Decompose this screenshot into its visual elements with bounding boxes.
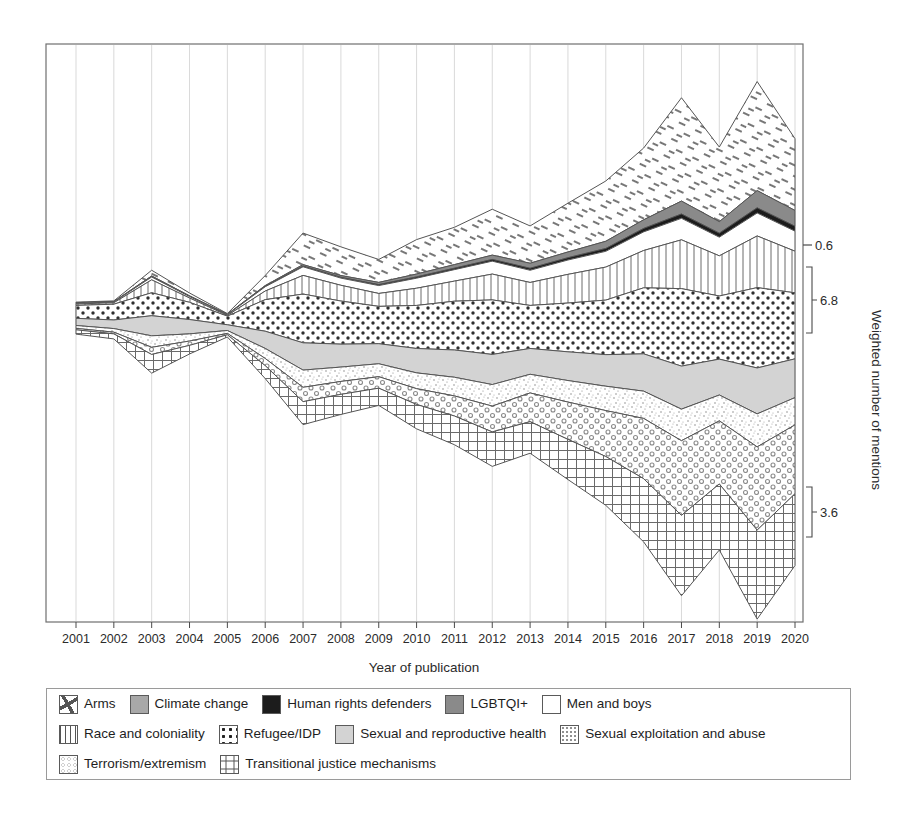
legend-label: LGBTQI+	[470, 697, 527, 711]
legend-item[interactable]: Transitional justice mechanisms	[220, 755, 436, 774]
legend-item[interactable]: Arms	[59, 695, 116, 714]
x-tick-label: 2008	[327, 632, 355, 646]
x-tick-label: 2010	[403, 632, 431, 646]
x-tick-label: 2015	[592, 632, 620, 646]
annotation-label: 3.6	[820, 505, 838, 520]
legend-swatch-icon	[59, 695, 78, 714]
legend-item[interactable]: Sexual and reproductive health	[335, 725, 546, 744]
y-axis-label: Weighted number of mentions	[869, 310, 884, 490]
legend-label: Race and coloniality	[84, 727, 205, 741]
x-tick-label: 2014	[554, 632, 582, 646]
legend-item[interactable]: Human rights defenders	[262, 695, 431, 714]
legend-item[interactable]: Climate change	[130, 695, 249, 714]
legend-swatch-icon	[542, 695, 561, 714]
x-axis-ticks: 2001200220032004200520062007200820092010…	[62, 622, 809, 646]
legend-swatch-icon	[219, 725, 238, 744]
legend-label: Climate change	[155, 697, 249, 711]
legend-label: Transitional justice mechanisms	[245, 757, 436, 771]
legend-row: ArmsClimate changeHuman rights defenders…	[47, 689, 850, 719]
legend-row: Race and colonialityRefugee/IDPSexual an…	[47, 719, 850, 749]
x-tick-label: 2013	[516, 632, 544, 646]
annotation-label: 0.6	[815, 238, 833, 253]
x-tick-label: 2019	[743, 632, 771, 646]
x-tick-label: 2020	[781, 632, 809, 646]
legend-label: Men and boys	[567, 697, 652, 711]
legend-item[interactable]: Race and coloniality	[59, 725, 205, 744]
x-tick-label: 2006	[251, 632, 279, 646]
x-tick-label: 2011	[441, 632, 468, 646]
legend-item[interactable]: Refugee/IDP	[219, 725, 321, 744]
chart-page: 2001200220032004200520062007200820092010…	[0, 0, 900, 822]
legend-swatch-icon	[445, 695, 464, 714]
x-tick-label: 2012	[478, 632, 506, 646]
annotation-bracket	[806, 487, 817, 537]
legend-swatch-icon	[59, 755, 78, 774]
annotation-bracket	[806, 267, 817, 333]
legend: ArmsClimate changeHuman rights defenders…	[46, 688, 851, 780]
x-tick-label: 2007	[289, 632, 317, 646]
legend-item[interactable]: Terrorism/extremism	[59, 755, 206, 774]
legend-label: Refugee/IDP	[244, 727, 321, 741]
legend-swatch-icon	[130, 695, 149, 714]
legend-swatch-icon	[220, 755, 239, 774]
legend-row: Terrorism/extremismTransitional justice …	[47, 749, 850, 779]
x-tick-label: 2009	[365, 632, 393, 646]
x-tick-label: 2003	[138, 632, 166, 646]
x-tick-label: 2004	[176, 632, 204, 646]
x-tick-label: 2018	[705, 632, 733, 646]
x-tick-label: 2005	[213, 632, 241, 646]
legend-label: Sexual and reproductive health	[360, 727, 546, 741]
legend-swatch-icon	[560, 725, 579, 744]
legend-swatch-icon	[335, 725, 354, 744]
legend-item[interactable]: LGBTQI+	[445, 695, 527, 714]
x-tick-label: 2001	[62, 632, 90, 646]
x-tick-label: 2016	[630, 632, 658, 646]
value-annotations: 0.66.83.6	[803, 238, 838, 538]
legend-swatch-icon	[59, 725, 78, 744]
legend-item[interactable]: Sexual exploitation and abuse	[560, 725, 765, 744]
x-axis-label: Year of publication	[369, 660, 480, 675]
legend-label: Sexual exploitation and abuse	[585, 727, 765, 741]
x-tick-label: 2017	[668, 632, 696, 646]
legend-item[interactable]: Men and boys	[542, 695, 652, 714]
annotation-label: 6.8	[820, 293, 838, 308]
legend-label: Arms	[84, 697, 116, 711]
legend-swatch-icon	[262, 695, 281, 714]
legend-label: Terrorism/extremism	[84, 757, 206, 771]
x-tick-label: 2002	[100, 632, 128, 646]
legend-label: Human rights defenders	[287, 697, 431, 711]
